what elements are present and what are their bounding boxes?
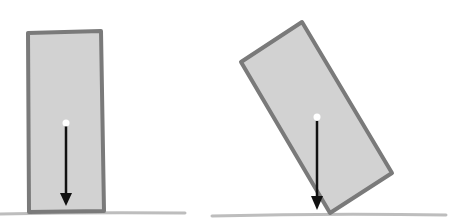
- center-of-gravity-dot: [314, 114, 321, 121]
- center-of-gravity-dot: [63, 120, 70, 127]
- center-of-gravity-diagram: [0, 0, 462, 224]
- arrow-head: [311, 196, 323, 210]
- upright-block: [28, 31, 104, 212]
- tilted-block: [241, 22, 392, 213]
